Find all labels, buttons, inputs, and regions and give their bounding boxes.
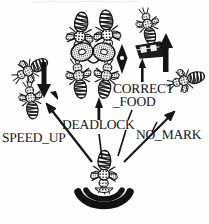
arrow-food-thin-marker — [139, 58, 146, 82]
bee-on-food-source — [133, 5, 168, 58]
arrow-to-correct-food — [118, 130, 126, 156]
label-speed-up: SPEED_UP — [2, 131, 66, 145]
label-deadlock: DEADLOCK — [62, 118, 135, 132]
arrow-speed-up-thin-marker — [50, 91, 58, 100]
waggle-dance-arc — [78, 188, 130, 206]
label-food: _FOOD — [113, 95, 156, 109]
figure-canvas: SPEED_UP DEADLOCK CORRECT _FOOD NO_MARK — [0, 0, 209, 224]
arrow-deadlock-marker — [117, 44, 128, 74]
label-no-mark: NO_MARK — [136, 128, 201, 142]
diagram-artwork — [0, 0, 209, 224]
